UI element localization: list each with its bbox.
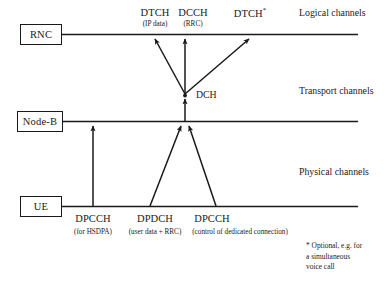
dch-junction-point xyxy=(183,94,187,98)
arrow-dch-to-dtch-ip xyxy=(155,39,185,94)
footnote-optional: * Optional, e.g. for a simultaneous voic… xyxy=(306,241,362,273)
physical-channel-dpdch-detail: (user data + RRC) xyxy=(129,228,182,236)
footnote-line-3: voice call xyxy=(306,262,362,273)
physical-channel-dpcch-hsdpa-name: DPCCH xyxy=(75,213,111,225)
physical-channel-dpcch-dedicated-name: DPCCH xyxy=(194,213,230,225)
footnote-line-1: * Optional, e.g. for xyxy=(306,241,362,252)
arrow-dpcch-dedicated xyxy=(189,126,216,206)
logical-channel-dcch-rrc-detail: (RRC) xyxy=(183,20,202,28)
layer-label-physical: Physical channels xyxy=(299,167,369,178)
arrow-dpdch xyxy=(150,126,181,206)
node-rnc: RNC xyxy=(20,24,62,45)
optional-marker-asterisk: * xyxy=(263,6,267,14)
physical-channel-dpcch-dedicated-detail: (control of dedicated connection) xyxy=(192,228,288,236)
logical-channel-dtch-ip-name: DTCH xyxy=(141,7,170,19)
node-nodeb-label: Node-B xyxy=(23,116,57,127)
arrow-dch-to-dtch-optional xyxy=(185,39,249,94)
logical-channel-dcch-rrc-name: DCCH xyxy=(178,7,208,19)
layer-label-logical: Logical channels xyxy=(299,8,366,19)
layer-label-transport: Transport channels xyxy=(299,86,373,97)
node-rnc-label: RNC xyxy=(30,29,52,40)
physical-channel-dpcch-hsdpa-detail: (for HSDPA) xyxy=(74,228,112,236)
logical-channel-dtch-optional: DTCH* xyxy=(234,7,267,19)
logical-channel-dtch-optional-name: DTCH xyxy=(234,8,263,19)
physical-channel-dpdch-name: DPDCH xyxy=(137,213,173,225)
transport-channel-dch-label: DCH xyxy=(196,90,217,101)
logical-channel-dtch-ip-detail: (IP data) xyxy=(143,20,168,28)
node-nodeb: Node-B xyxy=(17,111,63,132)
node-ue: UE xyxy=(20,196,62,217)
footnote-line-2: a simultaneous xyxy=(306,252,362,263)
channel-mapping-diagram: RNC Node-B UE DTCH (IP data) DCCH (RRC) … xyxy=(0,0,392,285)
node-ue-label: UE xyxy=(34,201,48,212)
